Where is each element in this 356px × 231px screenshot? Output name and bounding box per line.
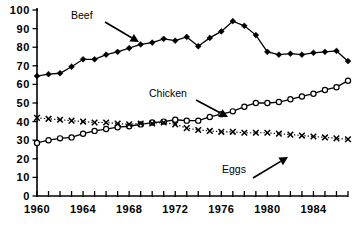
y-axis-tick-label: 50 xyxy=(17,97,30,109)
y-axis-tick-label: 80 xyxy=(17,41,30,53)
y-axis-tick-label: 40 xyxy=(17,116,30,128)
data-point-eggs xyxy=(103,120,109,126)
y-axis-tick-label: 90 xyxy=(17,23,30,35)
y-axis-tick-label: 10 xyxy=(17,171,30,183)
data-point-chicken xyxy=(276,99,281,104)
x-axis-tick-label: 1984 xyxy=(300,203,327,215)
data-point-chicken xyxy=(69,135,74,140)
data-point-chicken xyxy=(345,78,350,83)
data-point-beef xyxy=(92,56,98,62)
x-axis-tick-label: 1980 xyxy=(254,203,280,215)
data-point-chicken xyxy=(207,114,212,119)
data-point-chicken xyxy=(288,97,293,102)
data-point-chicken xyxy=(265,100,270,105)
data-point-chicken xyxy=(334,85,339,90)
data-point-eggs xyxy=(265,130,271,136)
data-point-chicken xyxy=(34,140,39,145)
data-point-beef xyxy=(126,45,132,51)
series-annotation-label: Beef xyxy=(71,9,93,21)
data-point-chicken xyxy=(196,118,201,123)
data-point-eggs xyxy=(207,128,213,134)
x-axis: 1960196419681972197619801984 xyxy=(24,191,348,215)
x-axis-tick-label: 1960 xyxy=(24,203,50,215)
data-point-beef xyxy=(172,38,178,44)
data-point-chicken xyxy=(92,128,97,133)
data-point-beef xyxy=(34,73,40,79)
x-axis-tick-label: 1976 xyxy=(208,203,234,215)
data-point-beef xyxy=(103,52,109,58)
data-point-eggs xyxy=(322,135,328,141)
data-point-chicken xyxy=(230,109,235,114)
data-point-chicken xyxy=(322,87,327,92)
series-annotation-arrow xyxy=(253,161,281,178)
data-point-beef xyxy=(115,49,121,55)
series-annotation-label: Chicken xyxy=(149,87,187,99)
data-point-beef xyxy=(288,51,294,57)
x-axis-tick-label: 1972 xyxy=(162,203,188,215)
x-axis-tick-label: 1968 xyxy=(116,203,142,215)
data-point-eggs xyxy=(299,133,305,139)
data-point-eggs xyxy=(46,116,52,122)
data-point-chicken xyxy=(184,118,189,123)
data-point-beef xyxy=(57,70,63,76)
series-annotation-arrow xyxy=(105,22,132,38)
data-point-beef xyxy=(276,52,282,58)
line-chart: 0102030405060708090100 19601964196819721… xyxy=(0,0,356,231)
data-point-chicken xyxy=(46,138,51,143)
data-point-chicken xyxy=(253,100,258,105)
data-point-beef xyxy=(299,52,305,58)
data-point-eggs xyxy=(69,118,75,124)
y-axis-tick-label: 30 xyxy=(17,134,30,146)
data-point-eggs xyxy=(92,120,98,126)
data-point-beef xyxy=(322,49,328,55)
y-axis-tick-label: 70 xyxy=(17,60,30,72)
y-axis-tick-label: 0 xyxy=(23,190,30,202)
data-series-group xyxy=(34,18,351,145)
data-point-beef xyxy=(149,40,155,46)
chart-container: 0102030405060708090100 19601964196819721… xyxy=(0,0,356,231)
data-point-chicken xyxy=(311,91,316,96)
y-axis-tick-label: 20 xyxy=(17,153,30,165)
series-annotation-label: Eggs xyxy=(222,163,246,175)
data-point-eggs xyxy=(242,130,248,136)
data-point-chicken xyxy=(57,136,62,141)
data-point-chicken xyxy=(299,94,304,99)
series-annotation-arrow xyxy=(196,100,220,113)
data-point-beef xyxy=(138,42,144,48)
data-point-beef xyxy=(161,36,167,42)
data-point-chicken xyxy=(80,131,85,136)
y-axis: 0102030405060708090100 xyxy=(10,4,38,202)
data-point-beef xyxy=(46,71,52,77)
data-point-eggs xyxy=(184,125,190,131)
y-axis-tick-label: 60 xyxy=(17,78,30,90)
data-point-beef xyxy=(311,50,317,56)
x-axis-tick-label: 1964 xyxy=(70,203,97,215)
y-axis-tick-label: 100 xyxy=(10,4,30,16)
data-point-chicken xyxy=(104,126,109,131)
series-line-beef xyxy=(37,21,348,76)
data-point-chicken xyxy=(242,104,247,109)
